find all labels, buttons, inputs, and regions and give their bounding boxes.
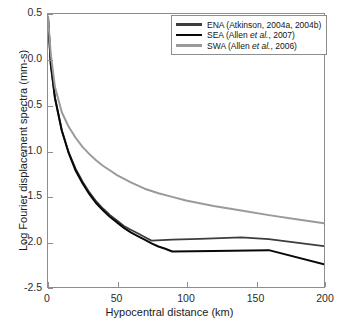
y-tick-mark [48,197,53,198]
legend-swatch [176,23,202,26]
x-axis-title: Hypocentral distance (km) [0,306,339,318]
y-tick-mark [48,288,53,289]
legend-swatch [176,44,202,47]
x-tick-label: 50 [97,292,137,304]
x-tick-label: 100 [166,292,206,304]
x-tick-mark [118,282,119,287]
legend-item[interactable]: ENA (Atkinson, 2004a, 2004b) [176,20,322,30]
x-tick-label: 150 [236,292,276,304]
legend-label: SWA (Allen et al., 2006) [207,41,297,51]
legend-box: ENA (Atkinson, 2004a, 2004b)SEA (Allen e… [171,15,327,55]
y-tick-mark [48,14,53,15]
x-tick-mark [325,282,326,287]
y-axis-title: Log Fourier displacement spectra (mm-s) [17,13,29,288]
y-tick-mark [48,152,53,153]
legend-swatch [176,34,202,37]
y-tick-mark [48,60,53,61]
figure-container: 050100150200 0.50.0-0.5-1.0-1.5-2.0-2.5 … [0,0,339,328]
x-tick-label: 0 [27,292,67,304]
legend-label: ENA (Atkinson, 2004a, 2004b) [207,20,321,30]
legend-item[interactable]: SWA (Allen et al., 2006) [176,41,322,51]
x-tick-mark [257,282,258,287]
legend-label: SEA (Allen et al., 2007) [207,30,295,40]
y-tick-mark [48,243,53,244]
x-tick-mark [187,282,188,287]
y-tick-mark [48,106,53,107]
x-tick-label: 200 [305,292,339,304]
x-tick-mark [48,282,49,287]
legend-item[interactable]: SEA (Allen et al., 2007) [176,30,322,40]
